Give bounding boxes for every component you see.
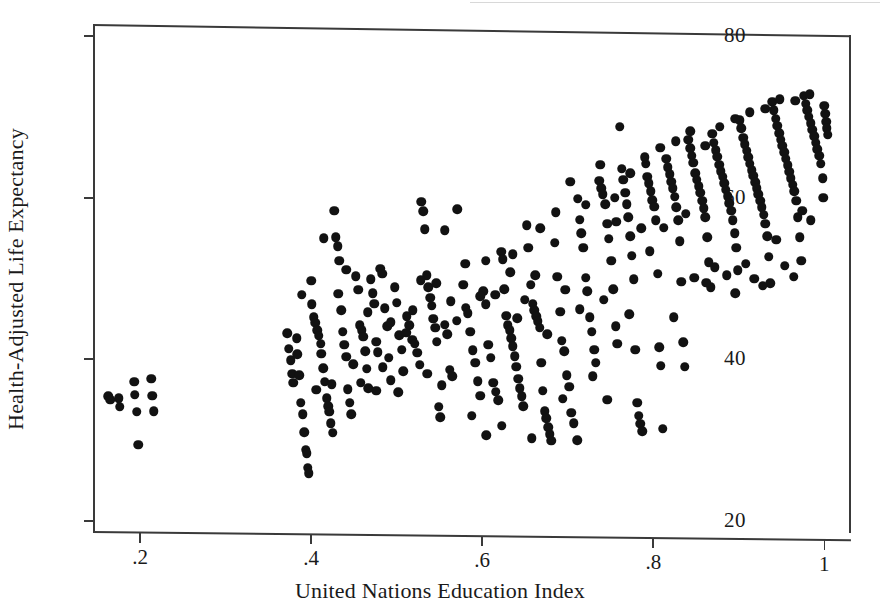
scatter-point [610,193,620,203]
scatter-point [581,273,591,283]
scatter-point [335,256,345,266]
scatter-point [728,216,738,226]
scatter-point [437,380,447,390]
scatter-point [550,238,560,248]
plot-area: 20406080 .2.4.6.81 [93,24,850,533]
scatter-point [147,391,157,401]
scatter-point [513,374,523,384]
scatter-point [612,217,622,227]
scatter-point [371,386,381,396]
x-tick-mark [310,534,312,544]
scatter-point [508,342,518,352]
scatter-point [701,141,711,151]
scatter-point [731,288,741,298]
scatter-point [482,430,492,440]
scatter-point [791,96,801,106]
scatter-point [805,90,815,100]
scatter-point [795,233,805,243]
scatter-point [611,321,621,331]
scatter-point [353,285,363,295]
scatter-point [300,427,310,437]
scatter-point [823,130,833,140]
scatter-point [685,127,695,137]
scatter-point [558,394,568,404]
scatter-point [448,372,458,382]
scatter-point [608,284,618,294]
scatter-point [575,304,585,314]
x-tick-label: .4 [303,548,319,569]
scatter-point [761,104,771,114]
scatter-point [348,359,358,369]
scatter-point [296,398,306,408]
scatter-point [670,192,680,202]
scatter-point [486,353,496,363]
scatter-point [498,254,508,264]
scatter-point [319,233,329,243]
scatter-point [669,313,679,323]
scatter-point [637,224,647,234]
scatter-point [347,409,357,419]
scatter-point [655,143,665,153]
scatter-point [297,290,307,300]
scatter-point [622,199,632,209]
scatter-point [324,407,334,417]
scatter-point [513,313,523,323]
scatter-point [601,199,611,209]
scatter-point [702,233,712,243]
scatter-point [656,361,666,371]
scatter-point [726,206,736,216]
scatter-point [467,411,477,421]
scatter-point [675,237,685,247]
scatter-point [758,281,768,291]
scatter-point [328,428,338,438]
scatter-point [434,402,444,412]
x-tick-mark [139,533,141,543]
x-tick-label: .8 [645,552,661,573]
scatter-point [494,396,504,406]
scatter-point [547,436,557,446]
x-tick-mark [481,536,483,546]
scatter-point [397,345,407,355]
scatter-point [587,327,597,337]
scatter-point [130,390,140,400]
scatter-point [629,275,639,285]
scatter-point [446,296,456,306]
scatter-points [93,24,850,533]
scatter-point [473,376,483,386]
scatter-point [420,224,430,234]
scatter-point [338,327,348,337]
scatter-point [452,316,462,326]
scatter-point [581,200,591,210]
scatter-point [607,256,617,266]
scatter-point [678,338,688,348]
scatter-point [417,197,427,207]
scatter-point [377,269,387,279]
scatter-point [436,413,446,423]
scatter-point [583,287,593,297]
scatter-point [345,398,355,408]
x-tick-label: 1 [819,554,830,575]
scatter-point [524,243,534,253]
scatter-point [818,174,828,184]
scatter-point [316,339,326,349]
scatter-point [431,279,441,289]
scatter-point [557,336,567,346]
scatter-point [418,207,428,217]
scatter-point [585,313,595,323]
scatter-point [517,392,527,402]
scatter-point [416,275,426,285]
scatter-point [340,340,350,350]
scatter-point [134,440,144,450]
scatter-point [326,418,336,428]
scatter-point [613,339,623,349]
scatter-point [701,212,711,222]
scatter-point [680,362,690,372]
scatter-point [789,272,799,282]
scatter-point [569,418,579,428]
scatter-point [761,219,771,229]
scatter-point [816,159,826,169]
scatter-point [555,307,565,317]
scatter-point [806,216,816,226]
scatter-point [780,261,790,271]
x-tick-mark [824,540,826,550]
